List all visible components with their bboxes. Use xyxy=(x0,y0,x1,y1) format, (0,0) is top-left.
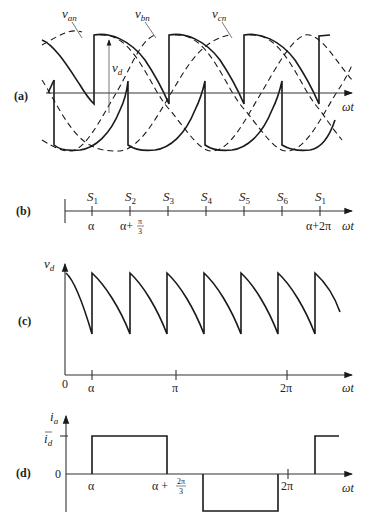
frac-den-b: 3 xyxy=(138,227,142,236)
tick-label-alpha-c: α xyxy=(88,381,95,395)
x-axis-label-c: ωt xyxy=(342,381,354,395)
switch-s4: S4 xyxy=(201,189,213,206)
zero-label-d: 0 xyxy=(55,467,61,481)
start-segment xyxy=(48,80,54,93)
switch-s1: S1 xyxy=(87,189,98,206)
switch-s3: S3 xyxy=(163,189,175,206)
tick-label-alpha-plus-d: α + xyxy=(152,479,168,493)
tick-label-2pi-c: 2π xyxy=(280,381,292,395)
label-van: van xyxy=(62,6,77,23)
leader-van xyxy=(72,22,82,38)
leader-vbn xyxy=(145,22,156,38)
sine-van-dashed xyxy=(42,31,352,151)
x-axis-label-a: ωt xyxy=(342,100,354,114)
panel-d: (d) ia id 0 α α + 2π 3 2π ωt xyxy=(16,409,354,512)
panel-d-label: (d) xyxy=(16,466,31,480)
switch-s2: S2 xyxy=(125,189,136,206)
x-axis-label-b: ωt xyxy=(342,219,354,233)
tick-label-2pi-d: 2π xyxy=(281,479,293,493)
panel-b: (b) S1 S2 S3 S4 S5 S6 S1 α α+ π 3 α+2π ω… xyxy=(16,189,354,236)
tick-label-alpha-d: α xyxy=(88,479,95,493)
panel-c: (c) vd 0 α π 2π ωt xyxy=(18,256,354,395)
frac-num-b: π xyxy=(138,217,142,226)
y-axis-label-d: ia xyxy=(50,409,59,426)
tick-alpha-2pi-b: α+2π xyxy=(306,219,331,233)
switch-s5: S5 xyxy=(239,189,251,206)
x-axis-label-d: ωt xyxy=(342,481,354,495)
tick-alpha-plus-b: α+ xyxy=(120,219,133,233)
panel-a-label: (a) xyxy=(14,89,28,103)
frac-num-d: 2π xyxy=(177,477,185,486)
converter-waveform-figure: (a) vd van vbn vcn ωt (b) xyxy=(0,0,374,526)
frac-den-d: 3 xyxy=(179,487,183,496)
y-axis-label-c: vd xyxy=(44,256,55,273)
label-vbn: vbn xyxy=(135,6,150,23)
label-vcn: vcn xyxy=(212,6,227,23)
tick-alpha-b: α xyxy=(88,219,95,233)
tick-label-pi-c: π xyxy=(172,381,178,395)
switch-s6: S6 xyxy=(277,189,289,206)
panel-b-label: (b) xyxy=(16,204,31,218)
panel-a: (a) vd van vbn vcn ωt xyxy=(14,6,354,151)
vd-label: vd xyxy=(112,60,123,77)
switch-s1-repeat: S1 xyxy=(315,189,326,206)
level-id-label: id xyxy=(44,431,53,448)
tick-label-0-c: 0 xyxy=(62,377,68,391)
panel-c-label: (c) xyxy=(18,314,31,328)
vd-sawtooth xyxy=(66,273,340,334)
